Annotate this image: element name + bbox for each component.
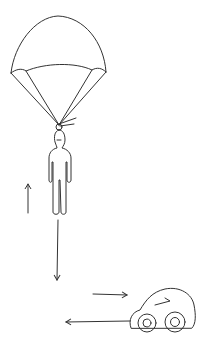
person-icon [49,124,71,214]
diagram-canvas: Hand-drawn sketch of a parachutist desce… [0,0,201,354]
left-arrow [66,321,130,322]
right-arrow [93,294,127,295]
parachute-icon [11,16,106,126]
car-icon [130,288,195,332]
down-arrow [57,220,58,280]
diagram-svg [0,0,201,354]
